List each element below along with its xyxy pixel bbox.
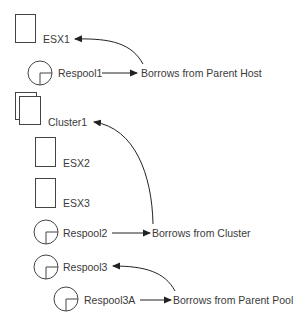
host-icon-esx3 — [36, 179, 56, 208]
arrow-borrows-to-cluster1 — [94, 122, 153, 224]
node-label-respool1: Respool1 — [58, 67, 102, 79]
resource-pool-icon-respool3a — [54, 287, 78, 311]
node-label-cluster1: Cluster1 — [48, 116, 87, 128]
annotation-borrows-cluster: Borrows from Cluster — [152, 227, 251, 239]
node-label-esx2: ESX2 — [63, 157, 90, 169]
annotation-borrows-parent-pool: Borrows from Parent Pool — [173, 294, 293, 306]
host-icon-esx1 — [16, 15, 36, 43]
annotation-borrows-parent-host: Borrows from Parent Host — [141, 67, 262, 79]
resource-pool-icon-respool2 — [34, 220, 58, 244]
host-icon-esx2 — [36, 138, 56, 167]
resource-pool-icon-respool1 — [28, 61, 52, 85]
node-label-respool2: Respool2 — [63, 227, 107, 239]
diagram-canvas — [0, 0, 306, 323]
node-label-respool3: Respool3 — [63, 261, 107, 273]
node-label-esx3: ESX3 — [63, 197, 90, 209]
node-label-respool3a: Respool3A — [84, 294, 135, 306]
arrow-borrows-to-esx1 — [75, 39, 143, 64]
node-label-esx1: ESX1 — [43, 33, 70, 45]
resource-pool-icon-respool3 — [34, 255, 58, 279]
arrow-borrows-to-respool3 — [113, 266, 175, 291]
cluster-icon-cluster1 — [16, 93, 41, 125]
